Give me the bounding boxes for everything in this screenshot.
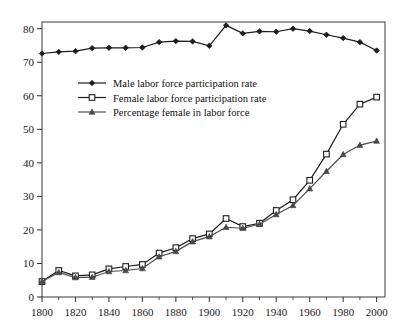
y-tick-label: 70 [23,56,35,68]
x-tick-label: 1940 [265,306,288,318]
x-tick-label: 1980 [332,306,355,318]
data-point-marker [324,151,330,157]
y-tick-label: 50 [23,123,35,135]
x-tick-label: 2000 [366,306,389,318]
x-tick-label: 1840 [98,306,121,318]
data-point-marker [374,94,380,100]
chart-background [0,0,399,328]
data-point-marker [357,101,363,107]
data-point-marker [223,216,229,222]
x-tick-label: 1900 [198,306,221,318]
x-tick-label: 1920 [232,306,255,318]
y-tick-label: 10 [23,257,35,269]
y-tick-label: 80 [23,23,35,35]
x-tick-label: 1880 [165,306,188,318]
data-point-marker [290,197,296,203]
y-tick-label: 30 [23,190,35,202]
y-tick-label: 20 [23,224,35,236]
x-tick-label: 1800 [31,306,54,318]
data-point-marker [340,121,346,127]
legend-label-2: Female labor force participation rate [113,93,267,104]
chart-container: 01020304050607080 1800182018401860188019… [0,0,399,328]
y-tick-label: 40 [23,157,35,169]
y-tick-label: 60 [23,90,35,102]
y-tick-label: 0 [29,291,35,303]
data-point-marker [307,177,313,183]
line-chart: 01020304050607080 1800182018401860188019… [0,0,399,328]
x-tick-label: 1820 [64,306,87,318]
data-point-marker [89,95,95,101]
x-tick-label: 1860 [131,306,154,318]
x-tick-label: 1960 [299,306,322,318]
legend-label-3: Percentage female in labor force [113,107,250,118]
legend-label-1: Male labor force participation rate [113,78,257,89]
